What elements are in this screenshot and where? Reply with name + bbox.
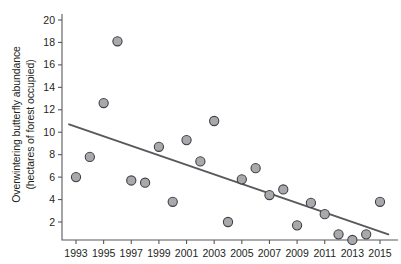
data-point	[210, 116, 219, 125]
y-tick-mark-group	[58, 20, 62, 222]
y-tick-label: 16	[43, 58, 55, 70]
x-tick-label: 2005	[230, 247, 254, 259]
y-tick-label: 4	[49, 193, 55, 205]
plot-area: 2468101214161820 19931995199719992001200…	[0, 0, 401, 264]
data-point	[279, 185, 288, 194]
y-tick-label: 6	[49, 171, 55, 183]
x-tick-label: 1995	[92, 247, 116, 259]
y-tick-label: 18	[43, 36, 55, 48]
data-point	[196, 157, 205, 166]
y-tick-label: 10	[43, 126, 55, 138]
y-tick-label-group: 2468101214161820	[43, 14, 55, 228]
data-point	[127, 176, 136, 185]
data-point	[85, 152, 94, 161]
x-tick-label: 2013	[341, 247, 365, 259]
y-tick-label: 20	[43, 14, 55, 26]
x-tick-label-group: 1993199519971999200120032005200720092011…	[64, 247, 392, 259]
x-tick-label: 2003	[203, 247, 227, 259]
x-tick-label: 1997	[120, 247, 144, 259]
data-point	[306, 198, 315, 207]
data-point	[334, 230, 343, 239]
data-point	[265, 190, 274, 199]
data-point	[320, 210, 329, 219]
data-point	[223, 217, 232, 226]
y-tick-label: 8	[49, 148, 55, 160]
data-point	[71, 173, 80, 182]
y-tick-label: 12	[43, 103, 55, 115]
data-point	[292, 221, 301, 230]
data-point	[113, 37, 122, 46]
data-point	[168, 197, 177, 206]
axis-lines	[62, 14, 398, 240]
data-point	[375, 197, 384, 206]
scatter-chart: Overwintering butterfly abundance (hecta…	[0, 0, 401, 264]
x-tick-label: 1999	[147, 247, 171, 259]
data-point	[182, 135, 191, 144]
y-tick-label: 14	[43, 81, 55, 93]
x-tick-label: 1993	[64, 247, 88, 259]
data-point	[362, 230, 371, 239]
data-point	[99, 98, 108, 107]
data-point	[251, 164, 260, 173]
x-tick-label: 2009	[285, 247, 309, 259]
x-tick-label: 2001	[175, 247, 199, 259]
data-point	[154, 142, 163, 151]
data-point	[140, 178, 149, 187]
data-point	[237, 175, 246, 184]
x-tick-mark-group	[76, 240, 380, 244]
x-tick-label: 2015	[368, 247, 392, 259]
x-tick-label: 2011	[313, 247, 336, 259]
data-point	[348, 235, 357, 244]
x-tick-label: 2007	[258, 247, 282, 259]
y-tick-label: 2	[49, 216, 55, 228]
